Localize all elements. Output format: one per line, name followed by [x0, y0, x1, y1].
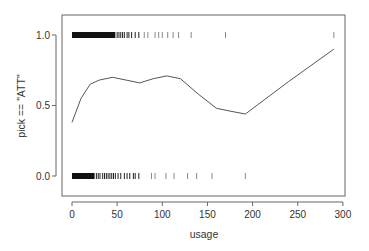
- rug-marks-bottom: [72, 173, 245, 179]
- y-tick-label: 0.0: [36, 171, 50, 182]
- plot-frame: [62, 15, 345, 196]
- x-tick-label: 300: [335, 209, 352, 220]
- x-tick-label: 250: [289, 209, 306, 220]
- x-tick-label: 100: [154, 209, 171, 220]
- y-axis: 0.00.51.0: [36, 30, 56, 182]
- x-tick-label: 200: [244, 209, 261, 220]
- y-axis-title: pick == "ATT": [15, 74, 27, 138]
- y-tick-label: 1.0: [36, 30, 50, 41]
- y-tick-label: 0.5: [36, 100, 50, 111]
- x-axis: 050100150200250300: [69, 202, 351, 220]
- x-tick-label: 0: [69, 209, 75, 220]
- x-tick-label: 50: [112, 209, 124, 220]
- smoothed-fit-line: [72, 49, 334, 122]
- x-axis-title: usage: [190, 228, 219, 240]
- x-tick-label: 150: [199, 209, 216, 220]
- chart: 050100150200250300 0.00.51.0 usage pick …: [0, 0, 369, 251]
- rug-marks-top: [72, 32, 334, 38]
